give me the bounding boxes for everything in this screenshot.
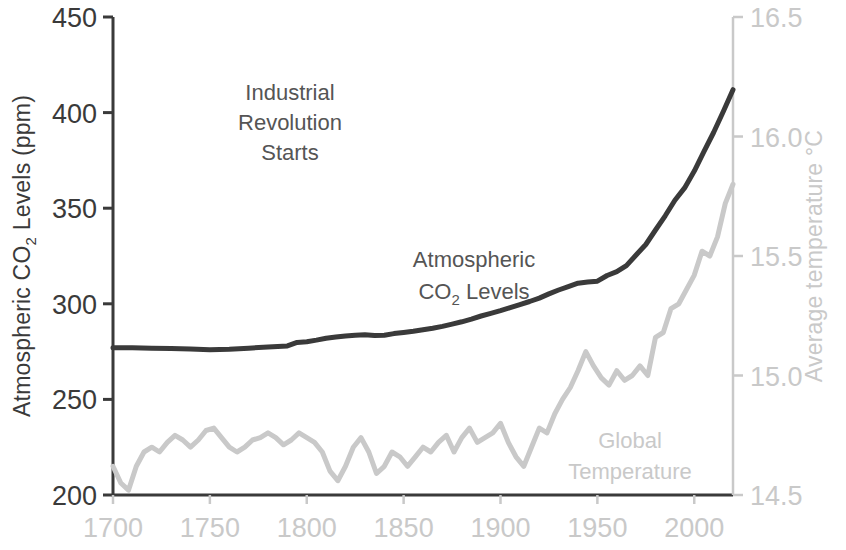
- svg-text:Average temperature °C: Average temperature °C: [801, 130, 827, 382]
- left-axis-tick-label: 350: [52, 194, 97, 224]
- annotation-industrial-revolution: IndustrialRevolutionStarts: [238, 80, 342, 165]
- right-axis-tick-label: 15.0: [750, 362, 803, 392]
- chart-canvas: 20025030035040045014.515.015.516.016.517…: [0, 0, 846, 550]
- x-axis-tick-label: 1950: [567, 513, 627, 543]
- series-line-atmospheric-co2-levels: [113, 90, 733, 350]
- left-axis-tick-label: 200: [52, 481, 97, 511]
- annotation-temperature-series-label: GlobalTemperature: [568, 428, 692, 484]
- left-axis-tick-label: 400: [52, 99, 97, 129]
- left-axis-tick-label: 250: [52, 385, 97, 415]
- x-axis-tick-label: 1800: [277, 513, 337, 543]
- x-axis-tick-label: 1700: [83, 513, 143, 543]
- left-axis-tick-label: 300: [52, 290, 97, 320]
- right-axis-tick-label: 16.5: [750, 3, 803, 33]
- left-axis-tick-label: 450: [52, 3, 97, 33]
- left-axis-title: Atmospheric CO2 Levels (ppm): [9, 95, 39, 417]
- right-axis-tick-label: 14.5: [750, 481, 803, 511]
- annotation-co2-series-label: AtmosphericCO2 Levels: [413, 247, 535, 308]
- x-axis-tick-label: 1850: [374, 513, 434, 543]
- x-axis-tick-label: 1750: [180, 513, 240, 543]
- x-axis-tick-label: 1900: [470, 513, 530, 543]
- labels-group: Atmospheric CO2 Levels (ppm)Average temp…: [9, 80, 827, 484]
- svg-text:Atmospheric CO2 Levels (ppm): Atmospheric CO2 Levels (ppm): [9, 95, 39, 417]
- climate-chart: 20025030035040045014.515.015.516.016.517…: [0, 0, 846, 550]
- right-axis-tick-label: 16.0: [750, 123, 803, 153]
- x-axis-tick-label: 2000: [664, 513, 724, 543]
- right-axis-title: Average temperature °C: [801, 130, 827, 382]
- right-axis-tick-label: 15.5: [750, 242, 803, 272]
